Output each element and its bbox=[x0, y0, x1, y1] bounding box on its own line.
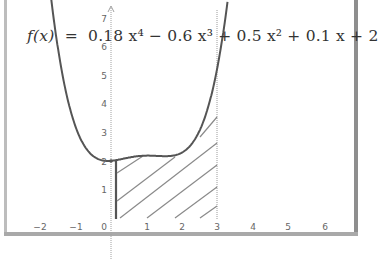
y-tick-label: 4 bbox=[101, 99, 107, 109]
x-tick-label: 2 bbox=[179, 222, 185, 232]
function-formula: f(x) = 0.18 x⁴ − 0.6 x³ + 0.5 x² + 0.1 x… bbox=[27, 27, 379, 45]
hatch-pattern bbox=[117, 117, 217, 218]
formula-lhs: f(x) bbox=[27, 27, 54, 45]
x-tick-label: 3 bbox=[214, 222, 220, 232]
formula-rhs: 0.18 x⁴ − 0.6 x³ + 0.5 x² + 0.1 x + 2 bbox=[88, 27, 378, 45]
x-tick-label: 4 bbox=[250, 222, 256, 232]
y-tick-label: 6 bbox=[101, 42, 107, 52]
x-tick-label: −1 bbox=[69, 222, 82, 232]
y-tick-label: 1 bbox=[101, 185, 107, 195]
y-tick-label: 5 bbox=[101, 71, 107, 81]
x-tick-label: 1 bbox=[144, 222, 150, 232]
x-tick-label: 0 bbox=[101, 222, 107, 232]
x-tick-label: 5 bbox=[285, 222, 291, 232]
x-tick-label: 6 bbox=[322, 222, 328, 232]
y-intercept-point bbox=[109, 159, 113, 163]
y-tick-label: 7 bbox=[101, 14, 107, 24]
x-tick-label: −2 bbox=[33, 222, 46, 232]
y-tick-label: 3 bbox=[101, 128, 107, 138]
y-tick-label: 2 bbox=[101, 157, 107, 167]
formula-equals: = bbox=[65, 27, 78, 45]
